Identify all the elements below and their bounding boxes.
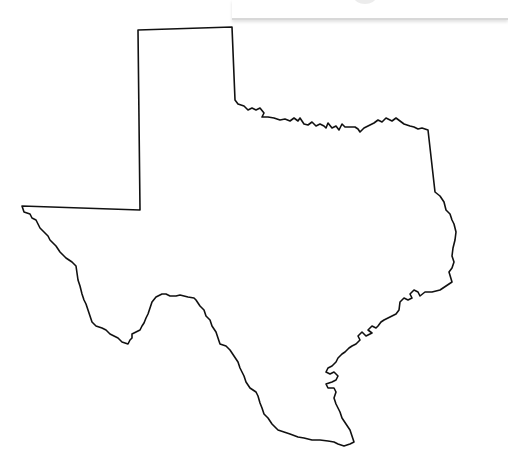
texas-outline <box>22 27 456 446</box>
texas-map <box>0 0 508 474</box>
